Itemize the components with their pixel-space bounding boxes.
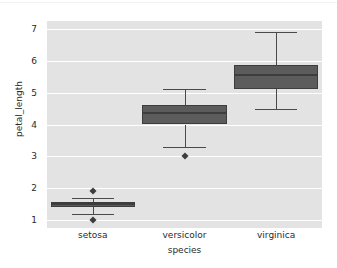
cap-lower-virginica <box>255 109 297 110</box>
whisker-upper-virginica <box>276 32 277 65</box>
plot-area <box>47 21 322 228</box>
y-tick-label-6: 6 <box>31 56 37 65</box>
y-tick-label-7: 7 <box>31 24 37 33</box>
x-axis-tick-labels: setosaversicolorvirginica <box>47 231 322 245</box>
y-axis-label: petal_length <box>14 54 24 164</box>
y-tick-label-5: 5 <box>31 88 37 97</box>
x-tick-label-setosa: setosa <box>78 231 107 241</box>
x-tick-label-virginica: virginica <box>257 231 295 241</box>
top-divider <box>0 2 337 3</box>
y-tick-label-3: 3 <box>31 152 37 161</box>
x-axis-label: species <box>47 245 322 255</box>
y-tick-label-1: 1 <box>31 216 37 225</box>
cap-upper-virginica <box>255 32 297 33</box>
y-tick-label-2: 2 <box>31 184 37 193</box>
box-virginica <box>234 65 318 90</box>
y-tick-label-4: 4 <box>31 120 37 129</box>
box-group-virginica <box>47 21 322 228</box>
median-virginica <box>234 74 318 76</box>
whisker-lower-virginica <box>276 89 277 108</box>
boxplot-figure: 1234567 petal_length setosaversicolorvir… <box>0 0 337 268</box>
x-tick-label-versicolor: versicolor <box>163 231 207 241</box>
